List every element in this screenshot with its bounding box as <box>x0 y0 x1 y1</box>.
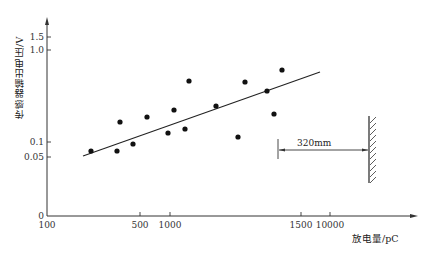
dimension-arrow-right-icon <box>362 149 368 152</box>
x-tick-label: 1500 <box>290 220 313 230</box>
dimension-arrow-left-icon <box>279 149 285 152</box>
x-tick-label: 10000 <box>316 220 345 230</box>
y-tick-label: 0 <box>38 211 44 221</box>
wall-hatch-icon <box>370 117 376 183</box>
y-tick-label: 1.0 <box>30 45 45 55</box>
hatch-stroke <box>370 171 376 177</box>
x-tick-label: 1000 <box>159 220 182 230</box>
data-point <box>235 134 240 139</box>
fit-line <box>83 72 320 156</box>
hatch-stroke <box>370 165 376 171</box>
data-point <box>271 111 276 116</box>
y-axis-title: 传感器输出电压/V <box>13 36 27 120</box>
scatter-chart: 1005001000150010000 00.050.11.01.5 <box>0 0 431 257</box>
data-point <box>117 119 122 124</box>
hatch-stroke <box>370 123 376 129</box>
y-tick-label: 0.05 <box>24 152 44 162</box>
y-axis-arrow-icon <box>45 17 49 25</box>
data-point <box>182 126 187 131</box>
data-point <box>171 107 176 112</box>
hatch-stroke <box>370 147 376 153</box>
data-point <box>264 88 269 93</box>
x-axis-title: 放电量/pC <box>352 231 399 245</box>
axes <box>45 17 418 218</box>
x-tick-label: 500 <box>131 220 148 230</box>
x-axis-arrow-icon <box>410 214 418 218</box>
dimension-annotation <box>278 116 376 183</box>
hatch-stroke <box>370 159 376 165</box>
hatch-stroke <box>370 177 376 183</box>
hatch-stroke <box>370 153 376 159</box>
y-tick-label: 0.1 <box>30 137 44 147</box>
y-tick-label: 1.5 <box>30 32 45 42</box>
hatch-stroke <box>370 135 376 141</box>
data-point <box>279 67 284 72</box>
hatch-stroke <box>370 129 376 135</box>
hatch-stroke <box>370 117 376 123</box>
data-point <box>130 141 135 146</box>
data-points <box>88 67 284 153</box>
data-point <box>165 130 170 135</box>
data-point <box>114 148 119 153</box>
x-tick-label: 100 <box>38 220 55 230</box>
x-ticks: 1005001000150010000 <box>38 212 344 230</box>
data-point <box>213 103 218 108</box>
data-point <box>88 148 93 153</box>
data-point <box>242 79 247 84</box>
data-point <box>186 78 191 83</box>
hatch-stroke <box>370 141 376 147</box>
data-point <box>144 114 149 119</box>
dimension-label: 320mm <box>297 138 331 148</box>
